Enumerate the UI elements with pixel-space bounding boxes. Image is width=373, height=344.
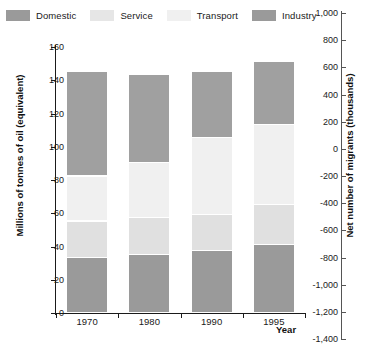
bar-segment-service-1990 — [192, 215, 232, 250]
bar-segment-service-1980 — [129, 218, 169, 253]
bar-segment-industry-1990 — [192, 72, 232, 137]
y-tick-mark-right — [341, 95, 346, 96]
y-tick-mark-right — [341, 285, 346, 286]
bar-segment-domestic-1990 — [192, 251, 232, 311]
y-tick-mark-right — [341, 67, 346, 68]
legend-item-service: Service — [90, 10, 152, 21]
x-tick-label-1980: 1980 — [139, 316, 160, 327]
x-tick-label-1970: 1970 — [77, 316, 98, 327]
legend-label-transport: Transport — [197, 10, 238, 21]
chart-legend: Domestic Service Transport Industry — [6, 6, 306, 24]
x-tick-mark — [118, 313, 119, 318]
x-tick-label-1995: 1995 — [263, 316, 284, 327]
y-tick-mark-right — [341, 312, 346, 313]
y-tick-label-right: 800 — [296, 35, 338, 45]
bar-segment-service-1970 — [67, 222, 107, 257]
legend-swatch-domestic — [6, 10, 30, 21]
bar-segment-transport-1995 — [254, 125, 294, 204]
y-axis-title-right: Net number of migrants (thousands) — [344, 41, 355, 271]
bar-1980 — [129, 47, 169, 313]
y-tick-mark-right — [341, 13, 346, 14]
bar-segment-industry-1980 — [129, 75, 169, 162]
y-axis-title-left: Millions of tonnes of oil (equivalent) — [14, 41, 25, 271]
bar-1995 — [254, 47, 294, 313]
bar-segment-service-1995 — [254, 205, 294, 244]
y-tick-mark-right — [341, 149, 346, 150]
bar-segment-domestic-1970 — [67, 258, 107, 312]
bar-segment-domestic-1980 — [129, 255, 169, 312]
x-tick-mark — [56, 313, 57, 318]
bar-segment-industry-1970 — [67, 72, 107, 176]
bar-segment-domestic-1995 — [254, 245, 294, 312]
y-tick-mark-right — [341, 122, 346, 123]
y-tick-mark-right — [341, 176, 346, 177]
x-tick-mark — [181, 313, 182, 318]
legend-label-service: Service — [120, 10, 152, 21]
y-tick-mark-right — [341, 203, 346, 204]
y-tick-mark-right — [341, 40, 346, 41]
legend-label-domestic: Domestic — [36, 10, 76, 21]
bar-1970 — [67, 47, 107, 313]
y-tick-mark-right — [341, 258, 346, 259]
bar-segment-industry-1995 — [254, 62, 294, 124]
plot-area — [56, 47, 305, 313]
bar-segment-transport-1990 — [192, 138, 232, 213]
x-tick-mark — [305, 313, 306, 318]
y-tick-mark-right — [341, 339, 346, 340]
legend-swatch-transport — [167, 10, 191, 21]
bar-1990 — [192, 47, 232, 313]
legend-swatch-service — [90, 10, 114, 21]
y-tick-label-right: 1,000 — [296, 8, 338, 18]
y-tick-label-right: -1,400 — [296, 334, 338, 344]
legend-item-domestic: Domestic — [6, 10, 76, 21]
x-tick-label-1990: 1990 — [201, 316, 222, 327]
x-tick-mark — [243, 313, 244, 318]
y-tick-mark-right — [341, 230, 346, 231]
bar-segment-transport-1970 — [67, 177, 107, 221]
legend-swatch-industry — [252, 10, 276, 21]
legend-item-transport: Transport — [167, 10, 238, 21]
bar-segment-transport-1980 — [129, 163, 169, 217]
